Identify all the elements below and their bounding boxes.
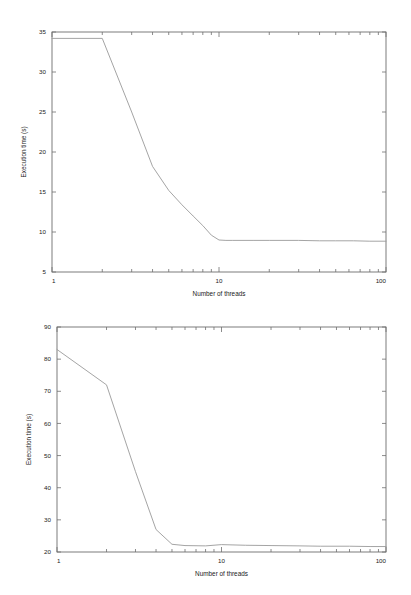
x-tick-label: 10 (218, 557, 225, 564)
y-tick-label: 25 (39, 108, 46, 115)
y-tick-label: 20 (44, 548, 51, 555)
plot-frame (57, 327, 386, 552)
y-tick-label: 35 (39, 28, 46, 35)
y-tick-label: 30 (44, 516, 51, 523)
chart-bottom: 1101002030405060708090Number of threadsE… (0, 300, 411, 595)
y-tick-label: 10 (39, 228, 46, 235)
x-axis-ticks (57, 327, 386, 552)
plot-frame (52, 32, 386, 272)
x-axis-label: Number of threads (195, 570, 248, 577)
chart-top: 1101005101520253035Number of threadsExec… (0, 0, 411, 300)
y-axis-label: Execution time (s) (25, 414, 33, 465)
y-tick-label: 40 (44, 484, 51, 491)
y-axis-ticks: 5101520253035 (39, 28, 386, 275)
y-tick-label: 5 (43, 268, 47, 275)
data-series-line (52, 38, 386, 241)
chart-top-canvas: 1101005101520253035Number of threadsExec… (0, 0, 411, 300)
x-tick-label: 100 (376, 277, 387, 284)
x-tick-label: 1 (52, 277, 56, 284)
chart-bottom-canvas: 1101002030405060708090Number of threadsE… (0, 300, 411, 595)
y-tick-label: 30 (39, 68, 46, 75)
y-tick-label: 90 (44, 323, 51, 330)
x-tick-label: 10 (216, 277, 223, 284)
y-tick-label: 15 (39, 188, 46, 195)
y-tick-label: 80 (44, 355, 51, 362)
x-axis-ticks (52, 32, 386, 272)
y-axis-ticks: 2030405060708090 (44, 323, 386, 555)
data-series-line (57, 350, 386, 547)
y-tick-label: 60 (44, 420, 51, 427)
x-axis-label: Number of threads (193, 290, 246, 297)
y-tick-label: 20 (39, 148, 46, 155)
y-tick-label: 50 (44, 452, 51, 459)
x-tick-label: 100 (376, 557, 387, 564)
x-tick-label: 1 (57, 557, 61, 564)
y-axis-label: Execution time (s) (20, 126, 28, 177)
y-tick-label: 70 (44, 387, 51, 394)
